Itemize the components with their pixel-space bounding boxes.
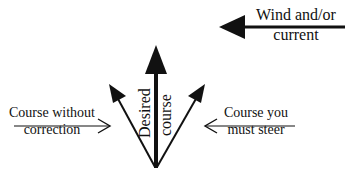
without-correction-label-line1: Course without [9,105,95,120]
course-label: course [157,94,174,136]
course-correction-diagram: Wind and/or current Desired course Cours… [0,0,349,175]
wind-label-line1: Wind and/or [256,6,336,23]
must-steer-label-line1: Course you [224,105,288,120]
without-correction-label-line2: correction [24,122,81,137]
must-steer-label-line2: must steer [227,122,284,137]
wind-label-line2: current [273,26,319,43]
desired-label: Desired [136,88,153,138]
